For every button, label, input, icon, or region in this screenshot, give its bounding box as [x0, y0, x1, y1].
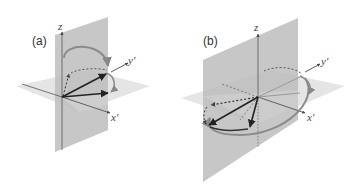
panel-label-a: (a): [32, 34, 47, 48]
panel-b: (b) z x′ y′: [181, 18, 345, 182]
y-axis: [305, 64, 320, 72]
z-axis-label: z: [253, 21, 259, 33]
panel-label-b: (b): [203, 34, 218, 48]
y-axis-label: y′: [320, 55, 329, 67]
x-axis-label: x′: [306, 111, 315, 123]
y-axis-label: y′: [127, 54, 136, 66]
z-axis-label: z: [57, 20, 63, 32]
panel-a: (a) z x′ y′: [16, 17, 150, 152]
vertical-plane: [55, 17, 108, 152]
rotation-diagram: (a) z x′ y′: [0, 0, 360, 193]
y-axis: [111, 63, 128, 72]
x-axis-label: x′: [110, 111, 119, 123]
